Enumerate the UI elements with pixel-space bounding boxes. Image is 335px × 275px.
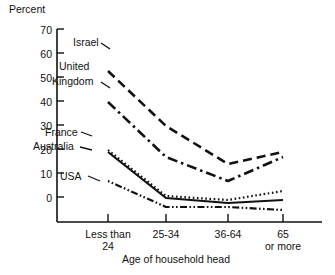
chart-canvas bbox=[0, 0, 335, 275]
data-series-group bbox=[108, 71, 283, 210]
axis-lines bbox=[57, 29, 322, 222]
line-chart: Percent 70 60 50 40 30 20 10 0 Less than… bbox=[0, 0, 335, 275]
leader-lines bbox=[80, 43, 110, 181]
series-line-israel bbox=[108, 71, 283, 164]
series-line-united-kingdom bbox=[108, 102, 283, 181]
